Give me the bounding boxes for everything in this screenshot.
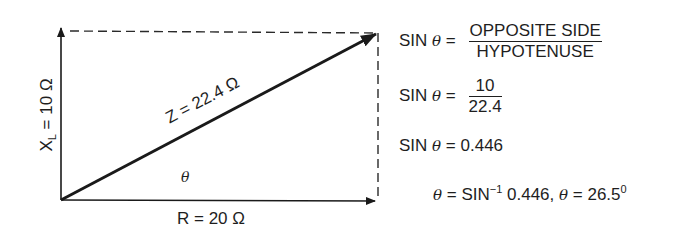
sin-label: SIN (399, 136, 427, 155)
dashed-top-line (70, 31, 378, 33)
equals-sign: = (446, 31, 456, 50)
denominator: 22.4 (469, 97, 502, 116)
inverse-superscript: −1 (490, 183, 503, 195)
impedance-vector (61, 34, 376, 200)
theta-symbol: θ (432, 87, 441, 105)
result-value: = 0.446 (446, 136, 503, 155)
impedance-label: Z = 22.4 Ω (163, 73, 243, 127)
sin-label: SIN (399, 86, 427, 105)
arcsin-label: = SIN (442, 185, 490, 204)
numerator: 10 (469, 77, 502, 97)
angle-value: = 26.5 (568, 185, 620, 204)
degree-superscript: 0 (621, 183, 627, 195)
reactance-label: XL = 10 Ω (37, 78, 58, 151)
equation-angle-result: θ = SIN−1 0.446, θ = 26.50 (433, 183, 627, 205)
theta-symbol: θ (433, 186, 442, 204)
theta-symbol: θ (559, 186, 568, 204)
fraction: 10 22.4 (469, 77, 502, 116)
arcsin-value: 0.446, (502, 185, 559, 204)
theta-symbol: θ (432, 137, 441, 155)
theta-symbol: θ (432, 32, 441, 50)
equation-sine-result: SIN θ = 0.446 (399, 136, 503, 156)
numerator: OPPOSITE SIDE (469, 22, 602, 42)
sin-label: SIN (399, 31, 427, 50)
denominator: HYPOTENUSE (469, 42, 602, 61)
fraction: OPPOSITE SIDE HYPOTENUSE (469, 22, 602, 61)
resistance-vector (61, 200, 375, 201)
equation-sine-values: SIN θ = 10 22.4 (399, 77, 502, 116)
impedance-triangle-diagram: XL = 10 Ω Z = 22.4 Ω θ R = 20 Ω (0, 0, 400, 236)
equation-sine-definition: SIN θ = OPPOSITE SIDE HYPOTENUSE (399, 22, 602, 61)
equals-sign: = (446, 86, 456, 105)
resistance-label: R = 20 Ω (177, 209, 245, 228)
angle-label: θ (181, 169, 190, 185)
